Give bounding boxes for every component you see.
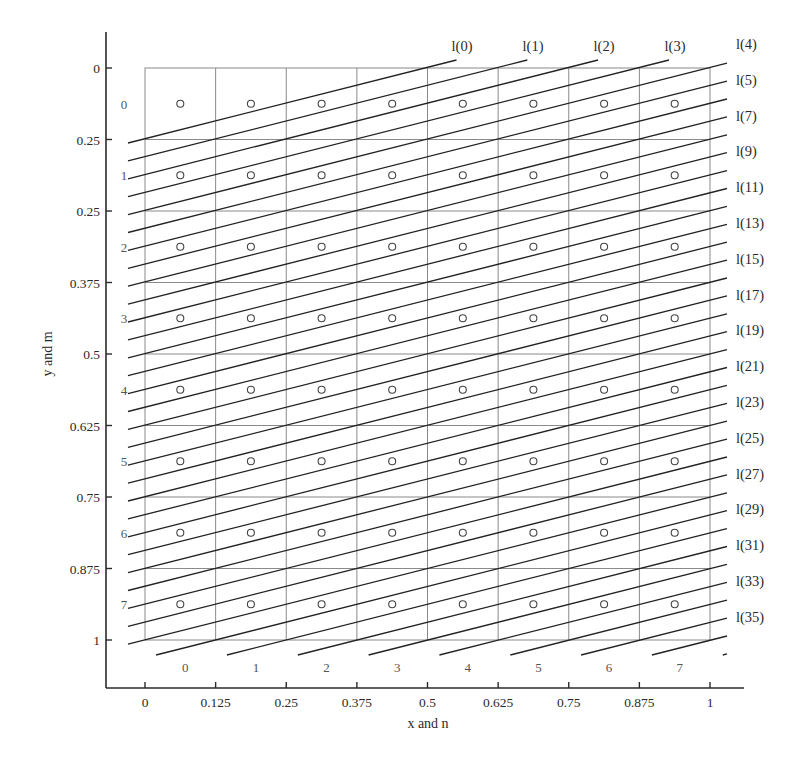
sample-point [247,529,254,536]
sample-point [459,529,466,536]
sample-point [671,529,678,536]
line-label-right: l(15) [736,251,764,268]
line-label-right: l(13) [736,215,764,232]
sample-point [530,100,537,107]
sample-point [247,315,254,322]
line-label-top: l(3) [665,38,686,55]
row-label: 6 [121,526,128,541]
sample-point [671,601,678,608]
row-label: 7 [121,597,128,612]
column-label: 0 [182,660,189,675]
sampling-line [227,529,727,655]
sample-point [530,601,537,608]
sampling-line [156,511,727,655]
column-label: 2 [323,660,330,675]
row-label: 0 [121,97,128,112]
column-label: 6 [606,660,613,675]
sample-point [318,243,325,250]
column-label: 3 [394,660,401,675]
sample-point [671,243,678,250]
sample-point [601,601,608,608]
y-tick-label: 0.625 [70,419,101,434]
sample-point [247,601,254,608]
line-label-right: l(35) [736,609,764,626]
y-tick-label: 0.375 [70,276,101,291]
sample-point [530,315,537,322]
row-label: 3 [121,311,128,326]
sample-point [459,172,466,179]
column-label: 7 [676,660,683,675]
sampling-line [369,564,727,655]
line-label-right: l(9) [736,143,757,160]
line-label-right: l(31) [736,537,764,554]
sample-point [389,386,396,393]
line-label-top: l(0) [452,38,473,55]
sample-point [177,172,184,179]
column-label: 1 [253,660,260,675]
x-tick-label: 0.5 [419,695,436,710]
line-label-right: l(33) [736,573,764,590]
row-label: 1 [121,168,128,183]
sample-point [530,529,537,536]
sampling-line [439,582,727,655]
x-axis-title: x and n [407,716,448,731]
sample-point [671,315,678,322]
x-tick-label: 0.875 [624,695,655,710]
sampling-line [128,60,669,197]
sample-point [389,100,396,107]
sample-point [671,386,678,393]
line-label-right: l(27) [736,466,764,483]
sample-point [530,386,537,393]
y-tick-label: 1 [93,633,100,648]
line-label-right: l(25) [736,430,764,447]
column-label: 5 [535,660,542,675]
sample-point [177,458,184,465]
sample-point [389,315,396,322]
sample-point [601,243,608,250]
figure: 00.250.250.3750.50.6250.750.875100.1250.… [0,0,811,765]
sample-point [389,601,396,608]
y-tick-label: 0.25 [76,133,100,148]
sample-point [247,100,254,107]
y-tick-label: 0.25 [76,204,100,219]
x-tick-label: 0.75 [557,695,581,710]
sample-point [318,172,325,179]
sample-point [389,458,396,465]
sample-point [459,315,466,322]
sample-point [530,172,537,179]
line-label-right: l(11) [736,179,764,196]
sample-point [318,601,325,608]
sample-point [601,386,608,393]
line-label-right: l(4) [736,36,757,53]
x-tick-label: 0.375 [342,695,373,710]
sample-point [601,172,608,179]
sample-point [318,529,325,536]
line-label-top: l(1) [523,38,544,55]
column-label: 4 [465,660,472,675]
sample-point [601,315,608,322]
sample-point [459,100,466,107]
sample-point [530,458,537,465]
sample-point [177,386,184,393]
sample-point [389,529,396,536]
row-label: 4 [121,383,128,398]
sample-point [530,243,537,250]
row-label: 5 [121,454,128,469]
sample-point [247,172,254,179]
line-label-right: l(23) [736,394,764,411]
diagram-canvas: 00.250.250.3750.50.6250.750.875100.1250.… [0,0,811,765]
y-tick-label: 0.875 [70,562,101,577]
sample-point [671,458,678,465]
sample-point [318,315,325,322]
sample-point [601,100,608,107]
x-tick-label: 0.125 [200,695,231,710]
sampling-line [298,547,727,656]
x-tick-label: 0.625 [483,695,514,710]
sample-point [247,243,254,250]
sample-point [601,529,608,536]
y-axis-title: y and m [40,331,55,376]
row-label: 2 [121,240,128,255]
sample-point [318,386,325,393]
line-label-right: l(7) [736,108,757,125]
sample-point [177,315,184,322]
